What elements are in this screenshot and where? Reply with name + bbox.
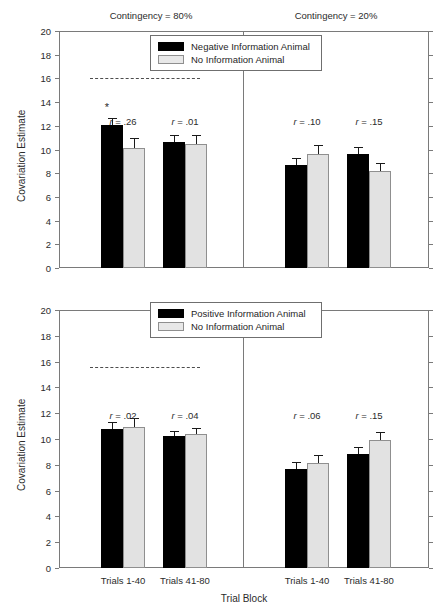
error-bar [296, 462, 297, 469]
y-tick-mark [429, 150, 433, 151]
legend-item: Positive Information Animal [158, 307, 314, 320]
y-tick-label: 20 [27, 305, 51, 316]
bar-no-information [369, 440, 391, 568]
reference-line [90, 78, 200, 79]
r-value-annotation: r = .06 [293, 410, 320, 421]
y-tick-mark [55, 568, 59, 569]
error-bar-cap [292, 158, 301, 159]
y-tick-label: 10 [27, 434, 51, 445]
bar-information [101, 125, 123, 268]
y-tick-mark [55, 268, 59, 269]
y-tick-mark [55, 197, 59, 198]
r-value-annotation: r = .01 [171, 116, 198, 127]
y-tick-mark [55, 413, 59, 414]
y-tick-label: 2 [27, 239, 51, 250]
error-bar-cap [170, 135, 179, 136]
legend-upper: Negative Information AnimalNo Informatio… [150, 35, 322, 71]
reference-line [90, 367, 200, 368]
r-value-annotation: r = .26 [109, 116, 136, 127]
error-bar-cap [354, 447, 363, 448]
y-tick-label: 0 [27, 563, 51, 574]
y-axis-label: Covariation Estimate [16, 399, 27, 491]
panel-divider [243, 310, 244, 568]
legend-item: No Information Animal [158, 320, 314, 333]
y-tick-label: 18 [27, 330, 51, 341]
y-tick-mark [55, 102, 59, 103]
bar-no-information [123, 148, 145, 268]
y-tick-label: 6 [27, 191, 51, 202]
x-axis-title: Trial Block [221, 593, 267, 604]
y-tick-mark [55, 387, 59, 388]
y-tick-label: 4 [27, 511, 51, 522]
error-bar [134, 138, 135, 148]
y-tick-mark [55, 465, 59, 466]
y-tick-label: 2 [27, 537, 51, 548]
y-tick-label: 0 [27, 263, 51, 274]
y-tick-label: 14 [27, 97, 51, 108]
y-tick-mark [55, 362, 59, 363]
bar-information [347, 454, 369, 568]
y-tick-mark [55, 439, 59, 440]
error-bar-cap [314, 455, 323, 456]
legend-lower: Positive Information AnimalNo Informatio… [150, 302, 322, 338]
y-tick-label: 12 [27, 120, 51, 131]
y-tick-mark [429, 197, 433, 198]
y-tick-label: 10 [27, 144, 51, 155]
y-tick-mark [55, 55, 59, 56]
legend-label: Positive Information Animal [191, 308, 306, 319]
y-tick-mark [429, 126, 433, 127]
y-tick-label: 4 [27, 215, 51, 226]
x-tick-label: Trials 41-80 [344, 575, 394, 586]
legend-swatch-black [158, 309, 184, 318]
error-bar-cap [376, 432, 385, 433]
bar-information [347, 154, 369, 268]
y-tick-mark [429, 336, 433, 337]
y-tick-mark [429, 542, 433, 543]
y-tick-mark [429, 568, 433, 569]
legend-item: Negative Information Animal [158, 40, 314, 53]
x-tick-label: Trials 41-80 [160, 575, 210, 586]
y-tick-mark [429, 413, 433, 414]
r-value-annotation: r = .15 [355, 410, 382, 421]
y-tick-mark [429, 268, 433, 269]
y-tick-label: 14 [27, 382, 51, 393]
y-tick-label: 8 [27, 168, 51, 179]
y-tick-mark [429, 465, 433, 466]
y-tick-mark [55, 310, 59, 311]
error-bar-cap [314, 145, 323, 146]
r-value-annotation: r = .02 [109, 410, 136, 421]
y-tick-mark [55, 221, 59, 222]
y-tick-label: 6 [27, 485, 51, 496]
y-tick-mark [55, 516, 59, 517]
y-tick-label: 18 [27, 49, 51, 60]
error-bar-cap [170, 431, 179, 432]
y-tick-mark [429, 221, 433, 222]
legend-swatch-black [158, 42, 184, 51]
y-tick-mark [429, 78, 433, 79]
y-tick-mark [55, 542, 59, 543]
y-tick-mark [429, 439, 433, 440]
error-bar [296, 158, 297, 165]
error-bar-cap [292, 462, 301, 463]
legend-label: No Information Animal [191, 54, 284, 65]
figure-root: Contingency = 80%Contingency = 20%Covari… [0, 0, 436, 610]
y-tick-mark [429, 102, 433, 103]
y-axis-label: Covariation Estimate [16, 109, 27, 201]
y-tick-mark [55, 491, 59, 492]
error-bar-cap [192, 428, 201, 429]
y-tick-mark [55, 126, 59, 127]
x-tick-label: Trials 1-40 [101, 575, 146, 586]
y-tick-mark [429, 244, 433, 245]
bar-no-information [307, 154, 329, 268]
y-tick-label: 20 [27, 26, 51, 37]
error-bar [174, 135, 175, 143]
legend-swatch-gray [158, 322, 184, 331]
error-bar-cap [376, 163, 385, 164]
bar-no-information [123, 427, 145, 568]
bar-information [285, 165, 307, 268]
significance-marker: * [105, 104, 109, 110]
error-bar [196, 135, 197, 144]
y-tick-label: 16 [27, 73, 51, 84]
bar-information [163, 436, 185, 568]
r-value-annotation: r = .10 [293, 116, 320, 127]
